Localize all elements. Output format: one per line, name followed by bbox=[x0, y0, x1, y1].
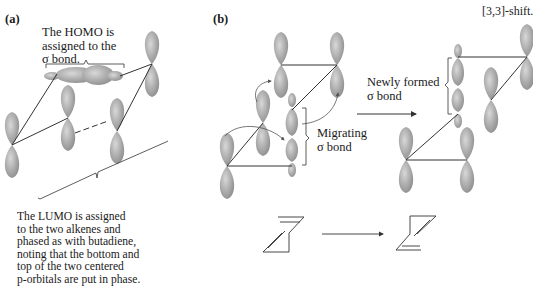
newly-formed-caption-line: Newly formed bbox=[367, 76, 440, 90]
lumo-caption-line: p-orbitals are put in phase. bbox=[17, 274, 140, 287]
panel-b-title: [3,3]-shift. bbox=[482, 5, 533, 18]
panel-b-label: (b) bbox=[213, 13, 228, 26]
panel-a-label: (a) bbox=[5, 13, 20, 26]
panel-b-right-orbitals bbox=[399, 24, 533, 193]
migrating-caption-line: Migrating bbox=[317, 127, 367, 141]
homo-caption: The HOMO is assigned to the σ bond. bbox=[42, 26, 116, 67]
homo-caption-line: σ bond. bbox=[42, 53, 116, 67]
migrating-caption-line: σ bond bbox=[317, 141, 367, 155]
homo-caption-line: The HOMO is bbox=[42, 26, 116, 40]
lumo-caption-line: The LUMO is assigned bbox=[17, 211, 140, 224]
lumo-caption: The LUMO is assigned to the two alkenes … bbox=[17, 211, 140, 287]
reactant-skeletal-structure bbox=[263, 217, 304, 252]
lumo-caption-line: phased as with butadiene, bbox=[17, 236, 140, 249]
homo-caption-line: assigned to the bbox=[42, 40, 116, 54]
newly-formed-bracket bbox=[445, 58, 452, 114]
lumo-bracket bbox=[38, 141, 168, 199]
migrating-bracket bbox=[302, 108, 309, 165]
product-skeletal-structure bbox=[396, 216, 436, 250]
migrating-caption: Migrating σ bond bbox=[317, 127, 367, 154]
newly-formed-caption: Newly formed σ bond bbox=[367, 76, 440, 103]
panel-b-left-orbitals bbox=[220, 32, 344, 199]
newly-formed-caption-line: σ bond bbox=[367, 90, 440, 104]
